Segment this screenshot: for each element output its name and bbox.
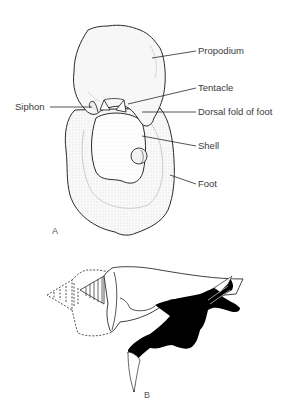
label-foot: Foot bbox=[198, 179, 217, 189]
label-siphon: Siphon bbox=[15, 102, 45, 112]
operculum-spur bbox=[128, 352, 140, 392]
label-tentacle: Tentacle bbox=[198, 83, 233, 93]
spire-solid bbox=[80, 276, 104, 304]
panel-letter-b: B bbox=[144, 391, 150, 400]
panel-letter-a: A bbox=[52, 227, 58, 236]
panel-a-illustration bbox=[50, 25, 196, 235]
label-dorsal-fold: Dorsal fold of foot bbox=[198, 107, 272, 117]
label-shell: Shell bbox=[198, 141, 219, 151]
shell-apex bbox=[131, 148, 147, 164]
label-propodium: Propodium bbox=[198, 46, 244, 56]
panel-b-illustration bbox=[47, 267, 243, 392]
